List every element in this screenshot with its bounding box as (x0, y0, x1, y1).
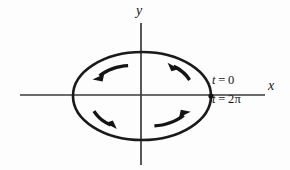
x-axis-label: x (268, 79, 274, 93)
arrow-upper-left-icon (93, 64, 129, 82)
y-axis-label: y (136, 4, 142, 18)
figure-canvas (0, 0, 290, 170)
arrow-lower-left-icon (93, 110, 117, 129)
curve-group (73, 52, 214, 140)
t-end-value: 2π (228, 92, 241, 106)
t-start-equals: = (218, 73, 225, 87)
t-end-equals: = (218, 92, 225, 106)
ellipse-curve (73, 52, 211, 140)
t-end-annotation: t=2π (212, 93, 241, 106)
parametric-ellipse-figure: y x t=0 t=2π (0, 0, 290, 170)
t-start-variable: t (212, 73, 216, 87)
arrow-lower-right-icon (154, 110, 191, 128)
arrow-upper-right-icon (168, 63, 191, 81)
t-end-variable: t (212, 92, 216, 106)
t-start-annotation: t=0 (212, 74, 234, 87)
t-start-value: 0 (228, 73, 234, 87)
